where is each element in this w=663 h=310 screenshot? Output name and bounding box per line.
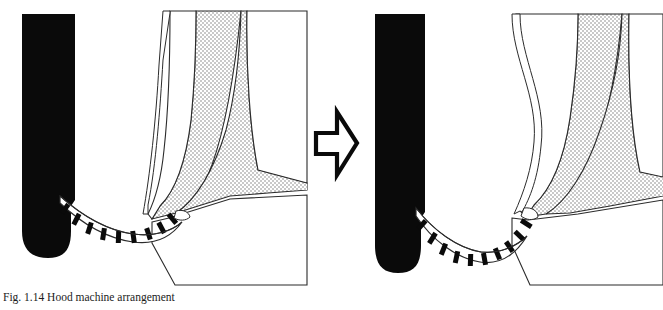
transition-arrow [316, 112, 357, 175]
right-duct-wall [247, 11, 307, 183]
technical-diagram [0, 0, 663, 310]
right-panel [375, 14, 663, 285]
figure-container: Fig. 1.14 Hood machine arrangement [0, 0, 663, 310]
suction-roll [375, 14, 425, 273]
figure-caption: Fig. 1.14 Hood machine arrangement [3, 291, 658, 304]
suction-roll [22, 14, 75, 258]
left-panel [22, 11, 307, 285]
